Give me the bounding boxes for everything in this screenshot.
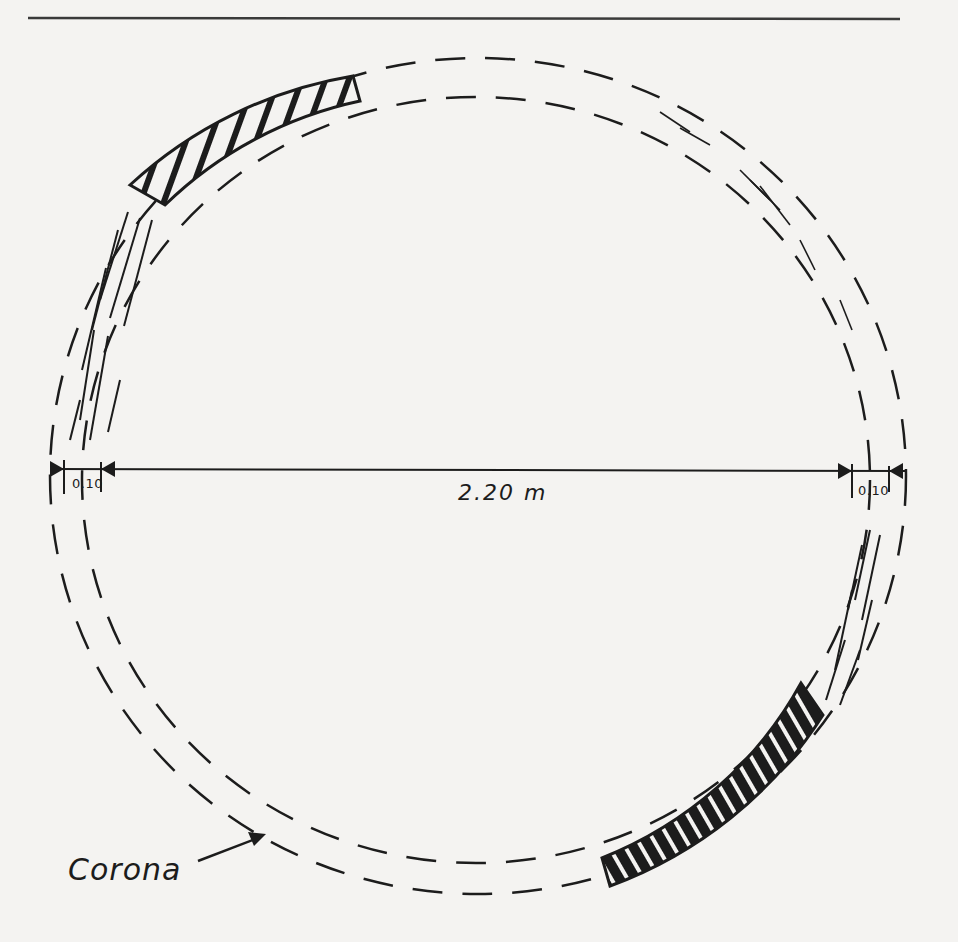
fragment-traces-right-upper	[660, 112, 852, 330]
top-rule	[28, 18, 900, 19]
diameter-label: 2.20 m	[458, 480, 547, 505]
corona-ring-diagram	[0, 0, 958, 942]
corona-segment-upper-left	[130, 76, 360, 205]
corona-arrow	[198, 832, 266, 861]
corona-label: Corona	[68, 852, 181, 887]
corona-segment-lower-right	[602, 683, 823, 886]
fragment-traces-left	[70, 212, 152, 440]
ring-width-right-label: 0.10	[858, 483, 889, 498]
ring-width-left-label: 0.10	[72, 476, 103, 491]
